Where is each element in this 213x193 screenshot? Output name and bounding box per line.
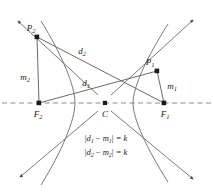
segment-m1-P1-F1 [157,71,164,103]
equation-2: |d2 − m2| = k [85,148,128,157]
label-point-F2: F2 [34,110,43,119]
segment-m2-P2-F2 [37,37,39,103]
hyperbola-figure: P2 P1 F2 F1 C d2 d1 m2 m1 |d1 − m1| = k … [0,0,213,193]
asymptote-lower-right-ray [111,111,193,179]
label-point-F1: F1 [161,110,170,119]
equation-1: |d1 − m1| = k [85,134,128,143]
label-segment-m2: m2 [20,73,30,82]
segment-d1-P1-F2 [39,71,157,103]
asymptote-lower-left-ray [20,111,98,177]
label-segment-d1: d1 [82,79,90,88]
point-F2 [37,101,42,106]
label-segment-d2: d2 [78,47,86,56]
point-C [103,101,107,105]
label-point-C: C [102,110,108,119]
segment-d2-P2-F1 [37,37,164,103]
point-F1 [162,101,167,106]
point-P2 [35,35,40,40]
label-point-P1: P1 [146,58,155,67]
label-point-P2: P2 [27,24,36,33]
label-segment-m1: m1 [167,82,177,91]
point-P1 [155,69,160,74]
